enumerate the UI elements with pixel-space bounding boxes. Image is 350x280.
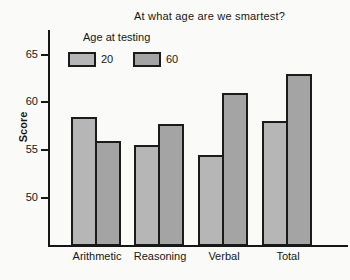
- y-tick-mark-55: [41, 149, 48, 151]
- legend-label-20: 20: [101, 52, 113, 67]
- bar-total-age20: [262, 121, 288, 246]
- x-axis-line: [48, 245, 348, 247]
- y-tick-label-60: 60: [18, 95, 38, 107]
- y-axis-label: Score: [17, 107, 33, 147]
- legend-swatch-20: [68, 52, 96, 67]
- bar-reasoning-age20: [134, 145, 160, 246]
- bar-verbal-age20: [198, 155, 224, 247]
- legend-title: Age at testing: [83, 31, 150, 43]
- y-tick-label-50: 50: [18, 191, 38, 203]
- y-tick-mark-60: [41, 101, 48, 103]
- bar-chart-figure: At what age are we smartest? Age at test…: [0, 0, 350, 280]
- bar-reasoning-age60: [158, 124, 184, 246]
- legend-swatch-60: [133, 52, 161, 67]
- chart-title: At what age are we smartest?: [71, 10, 348, 22]
- bar-arithmetic-age20: [71, 117, 97, 247]
- y-tick-mark-50: [41, 197, 48, 199]
- y-axis-line: [48, 30, 50, 247]
- bar-verbal-age60: [222, 93, 248, 247]
- y-tick-label-55: 55: [18, 143, 38, 155]
- y-tick-label-65: 65: [18, 48, 38, 60]
- y-tick-mark-65: [41, 54, 48, 56]
- bar-total-age60: [286, 74, 312, 247]
- bar-arithmetic-age60: [95, 141, 121, 247]
- x-category-label-total: Total: [248, 250, 328, 262]
- legend-label-60: 60: [166, 52, 178, 67]
